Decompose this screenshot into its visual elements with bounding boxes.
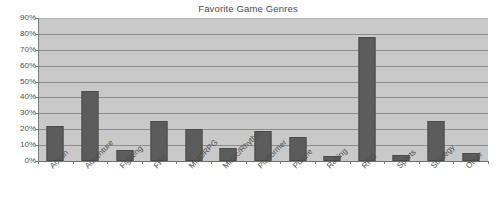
y-axis-tick-label: 10% — [2, 141, 36, 149]
y-axis-tick-label: 60% — [2, 62, 36, 70]
y-axis-tick-label: 40% — [2, 93, 36, 101]
chart-title: Favorite Game Genres — [0, 3, 496, 14]
bar-slot — [453, 18, 488, 161]
y-axis-tick-label: 0% — [2, 157, 36, 165]
bar-slot — [73, 18, 108, 161]
bar — [358, 37, 375, 161]
y-axis-tick-label: 90% — [2, 14, 36, 22]
y-axis-tick-label: 80% — [2, 30, 36, 38]
bar-slot — [38, 18, 73, 161]
bar-slot — [384, 18, 419, 161]
y-axis-tick-label: 30% — [2, 109, 36, 117]
y-axis-tick-label: 70% — [2, 46, 36, 54]
bar-slot — [315, 18, 350, 161]
bar-slot — [211, 18, 246, 161]
bar-slot — [176, 18, 211, 161]
bar-slot — [419, 18, 454, 161]
bar-slot — [350, 18, 385, 161]
y-axis-tick-label: 20% — [2, 125, 36, 133]
bar-slot — [107, 18, 142, 161]
bar-chart-figure: Favorite Game Genres 90%80%70%60%50%40%3… — [0, 0, 496, 222]
bar-slot — [142, 18, 177, 161]
x-axis-tick-mark — [488, 161, 489, 164]
bar-slot — [280, 18, 315, 161]
y-axis-tick-label: 50% — [2, 78, 36, 86]
y-axis-tick-labels: 90%80%70%60%50%40%30%20%10%0% — [0, 18, 36, 161]
x-axis-category-labels: ActionAdventureFightingFPSMMORPGMusic/Rh… — [38, 164, 488, 222]
